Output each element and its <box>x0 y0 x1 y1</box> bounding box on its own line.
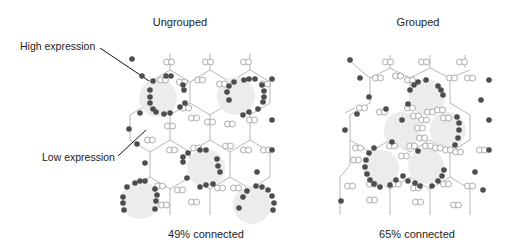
grouped-cells <box>363 79 466 186</box>
pointer-low <box>118 130 146 156</box>
network-diagram <box>0 0 512 248</box>
